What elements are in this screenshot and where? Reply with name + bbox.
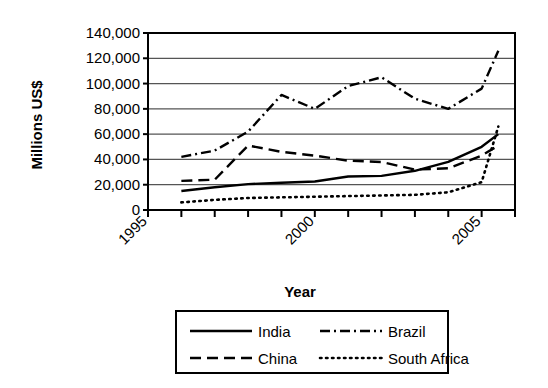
x-axis-title-label: Year	[284, 283, 316, 300]
legend-label-india: India	[258, 323, 291, 340]
legend-label-south-africa: South Africa	[388, 350, 470, 367]
y-axis-tick-label: 120,000	[86, 49, 140, 66]
y-axis-tick-label: 60,000	[94, 125, 140, 142]
y-axis-tick-label: 40,000	[94, 150, 140, 167]
x-axis-tick-marks	[148, 210, 515, 217]
series-line-india	[181, 134, 498, 191]
y-axis-title-label: Millions US$	[28, 80, 45, 170]
data-series-group	[181, 51, 498, 203]
y-axis-tick-label: 140,000	[86, 24, 140, 41]
y-axis-title: Millions US$	[28, 80, 45, 170]
chart-figure: Millions US$ 020,00040,00060,00080,00010…	[0, 0, 548, 388]
x-axis-tick-labels: 199520002005	[115, 212, 484, 248]
y-axis-tick-label: 20,000	[94, 176, 140, 193]
y-axis-tick-label: 100,000	[86, 75, 140, 92]
x-axis-tick-label: 1995	[115, 212, 151, 248]
series-line-brazil	[181, 51, 498, 157]
x-axis-tick-label: 2005	[448, 212, 484, 248]
horizontal-gridlines	[148, 33, 515, 185]
legend-label-brazil: Brazil	[388, 323, 426, 340]
series-line-china	[181, 146, 498, 181]
legend-label-china: China	[258, 350, 298, 367]
plot-area-border	[148, 33, 515, 210]
y-axis-tick-labels: 020,00040,00060,00080,000100,000120,0001…	[86, 24, 148, 218]
line-chart: Millions US$ 020,00040,00060,00080,00010…	[0, 0, 548, 388]
y-axis-tick-label: 80,000	[94, 100, 140, 117]
x-axis-tick-label: 2000	[281, 212, 317, 248]
